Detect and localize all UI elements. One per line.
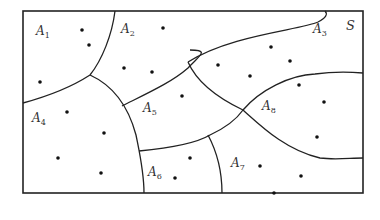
sample-point xyxy=(173,176,177,180)
region-label-a5: A5 xyxy=(142,101,157,117)
sample-point xyxy=(288,59,292,63)
region-label-a1: A1 xyxy=(35,24,50,40)
region-label-a8: A8 xyxy=(261,99,276,115)
region-label-a3: A3 xyxy=(312,22,327,38)
sample-point xyxy=(56,156,60,160)
sample-point xyxy=(216,63,220,67)
edge-a2-a3 xyxy=(188,11,326,62)
edge-a7-a8 xyxy=(243,110,363,159)
sample-point xyxy=(297,83,301,87)
sample-point xyxy=(322,100,326,104)
sample-point xyxy=(188,156,192,160)
region-label-a2: A2 xyxy=(120,22,135,38)
sample-point xyxy=(315,135,319,139)
sample-point xyxy=(122,66,126,70)
sample-point xyxy=(269,45,273,49)
sample-points xyxy=(38,26,326,195)
sample-point xyxy=(248,74,252,78)
sample-point xyxy=(102,131,106,135)
partition-diagram: A1A2A3A4A5A6A7A8 S xyxy=(0,0,380,220)
sample-point xyxy=(161,26,165,30)
edge-a1-a4 xyxy=(23,75,90,103)
sample-point xyxy=(65,110,69,114)
sample-point xyxy=(80,28,84,32)
edge-a6-a7 xyxy=(208,135,222,193)
sample-point xyxy=(258,164,262,168)
sample-point xyxy=(150,70,154,74)
set-s-boundary xyxy=(23,11,363,193)
edge-a1-a2 xyxy=(90,11,115,75)
region-label-a7: A7 xyxy=(230,156,245,172)
edge-a2-a5 xyxy=(122,50,201,106)
edge-a4-a5 xyxy=(90,75,144,193)
sample-point xyxy=(38,80,42,84)
edge-a3-a8 xyxy=(243,72,363,110)
sample-point xyxy=(299,174,303,178)
sample-point xyxy=(180,94,184,98)
region-label-a6: A6 xyxy=(147,165,162,181)
set-label: S xyxy=(346,18,355,33)
sample-point xyxy=(272,191,276,195)
sample-point xyxy=(99,171,103,175)
sample-point xyxy=(87,43,91,47)
edge-a3-a5 xyxy=(188,62,243,110)
region-labels: A1A2A3A4A5A6A7A8 xyxy=(31,22,327,181)
region-label-a4: A4 xyxy=(31,111,46,127)
